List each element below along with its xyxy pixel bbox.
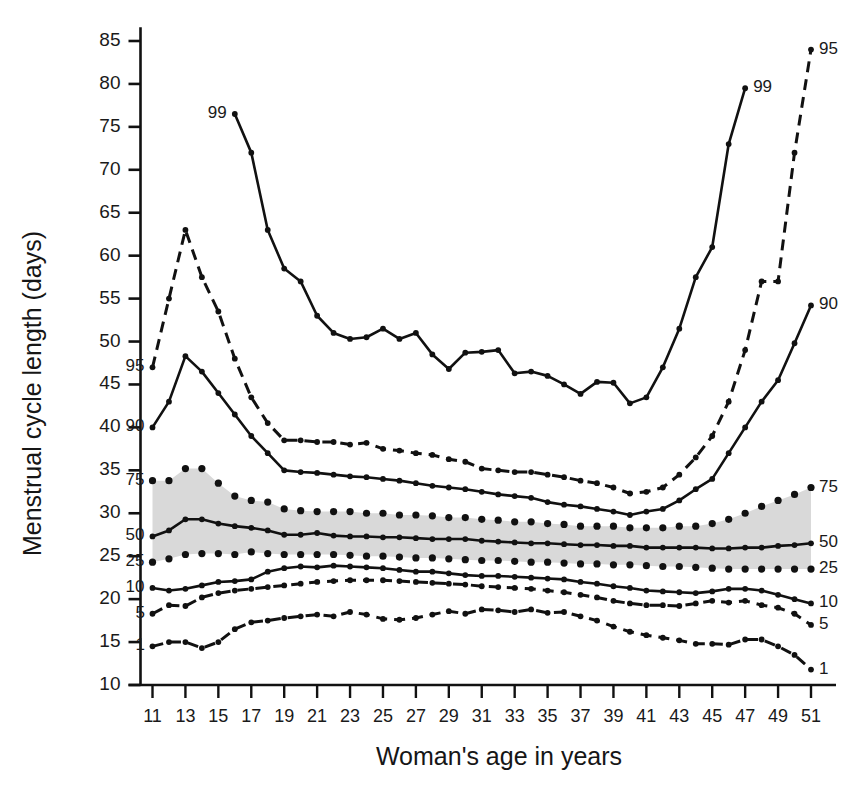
series-label-left-90: 90 bbox=[126, 416, 145, 436]
y-tick-label: 80 bbox=[75, 72, 121, 94]
y-tick-label: 10 bbox=[75, 673, 121, 695]
series-label-left-50: 50 bbox=[126, 525, 145, 545]
x-tick-label: 39 bbox=[598, 706, 628, 727]
y-tick-label: 30 bbox=[75, 501, 121, 523]
y-tick-label: 55 bbox=[75, 287, 121, 309]
percentile-chart-svg bbox=[0, 0, 858, 798]
series-label-right-90: 90 bbox=[819, 294, 838, 314]
x-tick-label: 45 bbox=[697, 706, 727, 727]
x-tick-label: 37 bbox=[566, 706, 596, 727]
x-tick-label: 11 bbox=[138, 706, 168, 727]
y-tick-label: 25 bbox=[75, 544, 121, 566]
x-tick-label: 47 bbox=[730, 706, 760, 727]
x-tick-label: 31 bbox=[467, 706, 497, 727]
series-99 bbox=[232, 85, 748, 406]
y-tick-label: 35 bbox=[75, 458, 121, 480]
x-tick-label: 13 bbox=[170, 706, 200, 727]
y-tick-label: 60 bbox=[75, 244, 121, 266]
x-tick-label: 43 bbox=[664, 706, 694, 727]
series-label-left-10: 10 bbox=[126, 577, 145, 597]
axes-layer bbox=[129, 27, 837, 698]
x-tick-label: 15 bbox=[203, 706, 233, 727]
series-label-right-50: 50 bbox=[819, 532, 838, 552]
series-label-left-1: 1 bbox=[136, 635, 145, 655]
x-tick-label: 23 bbox=[335, 706, 365, 727]
x-tick-label: 49 bbox=[763, 706, 793, 727]
x-tick-label: 17 bbox=[236, 706, 266, 727]
x-tick-label: 25 bbox=[368, 706, 398, 727]
series-95 bbox=[150, 47, 814, 497]
series-label-right-95: 95 bbox=[819, 39, 838, 59]
series-label-right-25: 25 bbox=[819, 558, 838, 578]
series-label-left-5: 5 bbox=[136, 603, 145, 623]
series-5 bbox=[150, 577, 814, 627]
x-tick-label: 27 bbox=[401, 706, 431, 727]
series-label-left-25: 25 bbox=[126, 551, 145, 571]
chart-figure: Menstrual cycle length (days) Woman's ag… bbox=[0, 0, 858, 798]
x-tick-label: 35 bbox=[533, 706, 563, 727]
y-tick-label: 70 bbox=[75, 158, 121, 180]
y-tick-label: 85 bbox=[75, 29, 121, 51]
y-tick-label: 75 bbox=[75, 115, 121, 137]
x-tick-label: 33 bbox=[500, 706, 530, 727]
y-tick-label: 40 bbox=[75, 415, 121, 437]
series-label-right-99: 99 bbox=[753, 77, 772, 97]
series-label-left-75: 75 bbox=[126, 470, 145, 490]
series-label-right-10: 10 bbox=[819, 592, 838, 612]
series-label-right-75: 75 bbox=[819, 477, 838, 497]
x-axis-title: Woman's age in years bbox=[0, 742, 858, 771]
x-tick-label: 21 bbox=[302, 706, 332, 727]
x-tick-label: 41 bbox=[631, 706, 661, 727]
y-tick-label: 50 bbox=[75, 330, 121, 352]
series-label-left-95: 95 bbox=[126, 356, 145, 376]
series-90 bbox=[150, 303, 814, 518]
x-tick-label: 29 bbox=[434, 706, 464, 727]
y-tick-label: 15 bbox=[75, 630, 121, 652]
y-axis-title: Menstrual cycle length (days) bbox=[18, 174, 47, 614]
series-label-left-99: 99 bbox=[208, 103, 227, 123]
series-label-right-5: 5 bbox=[819, 614, 828, 634]
data-series-layer bbox=[149, 47, 815, 673]
series-label-right-1: 1 bbox=[819, 659, 828, 679]
x-tick-label: 19 bbox=[269, 706, 299, 727]
y-tick-label: 65 bbox=[75, 201, 121, 223]
x-tick-label: 51 bbox=[796, 706, 826, 727]
y-tick-label: 45 bbox=[75, 372, 121, 394]
series-1 bbox=[150, 607, 814, 673]
y-tick-label: 20 bbox=[75, 587, 121, 609]
